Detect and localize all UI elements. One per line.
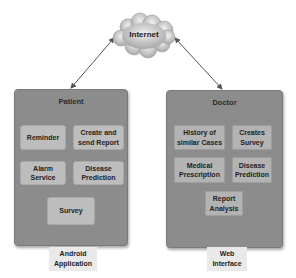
report-analysis-box: Report Analysis [205, 191, 243, 216]
doctor-title: Doctor [167, 98, 282, 107]
arrow-internet-patient [71, 38, 114, 88]
patient-panel: Patient Reminder Create and send Report … [14, 89, 128, 246]
create-send-report-box: Create and send Report [73, 125, 124, 150]
history-similar-cases-box: History of similar Cases [174, 125, 225, 150]
reminder-box: Reminder [20, 125, 66, 150]
disease-prediction-box: Disease Prediction [73, 161, 124, 185]
doctor-panel: Doctor History of similar Cases Creates … [166, 90, 283, 248]
patient-title: Patient [15, 97, 127, 106]
survey-box: Survey [47, 197, 95, 225]
alarm-service-box: Alarm Service [20, 161, 66, 185]
creates-survey-box: Creates Survey [232, 125, 272, 150]
android-application-label: Android Application [49, 247, 97, 271]
disease-prediction-box: Disease Prediction [232, 157, 272, 183]
web-interface-label: Web Interface [207, 247, 247, 271]
arrow-internet-doctor [175, 38, 222, 89]
internet-label: Internet [113, 30, 175, 39]
medical-prescription-box: Medical Prescription [174, 157, 225, 183]
